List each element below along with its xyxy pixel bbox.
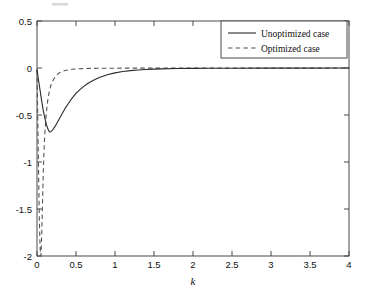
y-tick-label: -0.5	[16, 110, 32, 121]
x-tick-label: 1.5	[147, 259, 160, 270]
legend-label-optimized: Optimized case	[261, 44, 320, 54]
scan-artifact	[52, 3, 68, 6]
y-tick-labels: 0.5 0 -0.5 -1 -1.5 -2	[16, 16, 32, 262]
y-tick-label: -2	[24, 251, 32, 262]
y-tick-label: -1	[24, 157, 32, 168]
series-line-unoptimized	[37, 68, 349, 132]
x-tick-label: 2	[190, 259, 195, 270]
legend[interactable]: Unoptimized case Optimized case	[221, 21, 347, 58]
x-tick-label: 0	[34, 259, 39, 270]
line-chart: 0 0.5 1 1.5 2 2.5 3 3.5 4 0.5 0 -0.5 -1 …	[0, 0, 366, 299]
x-tick-label: 4	[346, 259, 351, 270]
y-tick-label: 0	[27, 63, 32, 74]
x-tick-labels: 0 0.5 1 1.5 2 2.5 3 3.5 4	[34, 259, 351, 270]
figure-container: 0 0.5 1 1.5 2 2.5 3 3.5 4 0.5 0 -0.5 -1 …	[0, 0, 366, 299]
x-tick-label: 3	[268, 259, 273, 270]
x-tick-label: 1	[112, 259, 117, 270]
y-tick-label: 0.5	[19, 16, 32, 27]
series-line-optimized	[37, 68, 349, 256]
legend-label-unoptimized: Unoptimized case	[261, 29, 329, 39]
x-tick-label: 2.5	[225, 259, 238, 270]
x-axis-title: k	[191, 275, 197, 287]
x-tick-label: 0.5	[69, 259, 82, 270]
y-tick-label: -1.5	[16, 204, 32, 215]
x-tick-label: 3.5	[303, 259, 316, 270]
series-paths	[37, 68, 349, 256]
